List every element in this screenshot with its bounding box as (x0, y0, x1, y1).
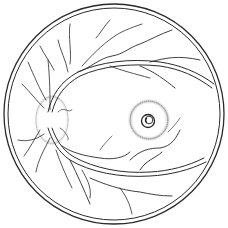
macula-lesion (127, 98, 171, 142)
optic-disc (34, 94, 72, 146)
fundus-illustration: Retinal fundus line drawing (0, 0, 228, 228)
fundus-drawing (0, 0, 228, 228)
